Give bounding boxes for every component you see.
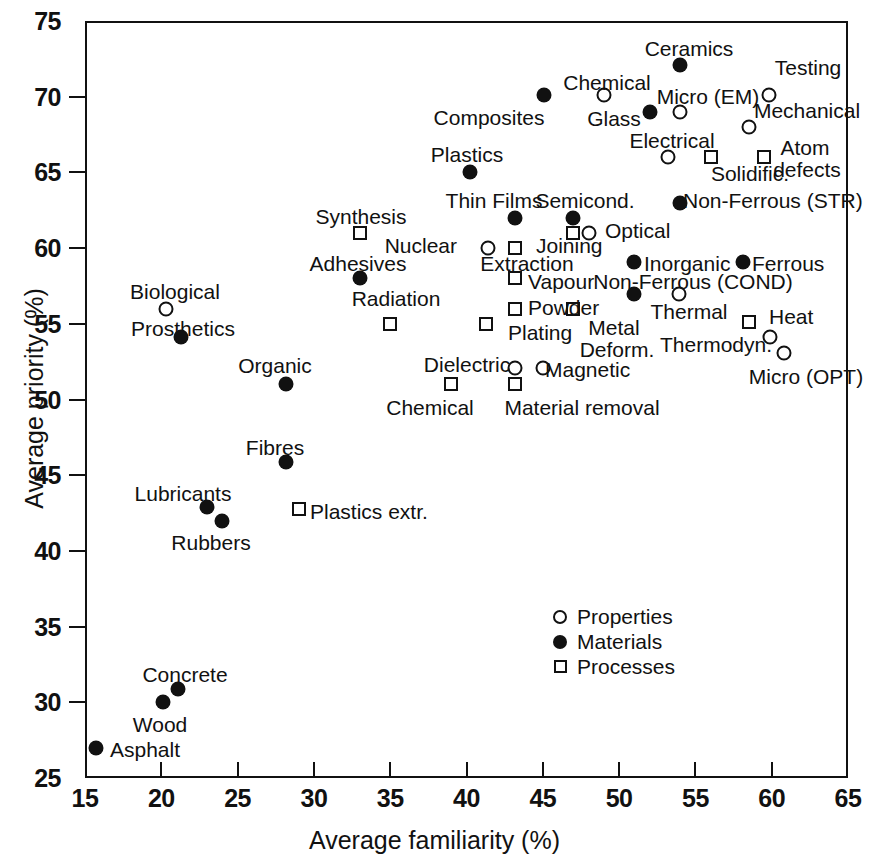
data-point-label: Synthesis (315, 206, 406, 227)
y-axis-tick (69, 96, 85, 98)
legend-item-label: Properties (577, 605, 673, 629)
x-axis-tick-label: 55 (655, 784, 735, 813)
data-point-label: Metal (588, 317, 639, 338)
data-point-marker (508, 377, 522, 391)
x-axis-tick (160, 762, 162, 778)
data-point-marker (155, 695, 170, 710)
x-axis-tick (542, 762, 544, 778)
x-axis-tick-label: 35 (350, 784, 430, 813)
x-axis-tick (694, 762, 696, 778)
data-point-label: Deform. (580, 339, 655, 360)
data-point-label: Semicond. (535, 190, 634, 211)
data-point-label: Solidific. (711, 163, 789, 184)
data-point-label: Electrical (629, 130, 714, 151)
data-point-label: Adhesives (310, 253, 407, 274)
data-point-label: Prosthetics (131, 318, 235, 339)
data-point-label: Organic (238, 355, 312, 376)
data-point-label: Composites (434, 107, 545, 128)
data-point-label: Plastics extr. (310, 501, 428, 522)
data-point-label: Atom (780, 137, 829, 158)
data-point-label: Thermal (650, 301, 727, 322)
x-axis-tick-label: 50 (579, 784, 659, 813)
data-point-label: Ceramics (645, 38, 734, 59)
data-point-marker (383, 317, 397, 331)
data-point-marker (508, 302, 522, 316)
data-point-marker (742, 315, 756, 329)
legend-item-processes: Processes (549, 654, 675, 679)
data-point-label: Glass (587, 108, 641, 129)
data-point-marker (158, 301, 173, 316)
data-point-label: Dielectric (424, 354, 510, 375)
x-axis-tick-label: 45 (503, 784, 583, 813)
data-point-label: Chemical (563, 72, 651, 93)
data-point-label: Material removal (504, 397, 659, 418)
y-axis-tick (69, 399, 85, 401)
y-axis-title: Average priority (%) (20, 149, 49, 649)
data-point-marker (279, 377, 294, 392)
data-point-marker (566, 210, 581, 225)
y-axis-tick (69, 474, 85, 476)
x-axis-tick-label: 20 (121, 784, 201, 813)
data-point-marker (479, 317, 493, 331)
data-point-label: Micro (OPT) (749, 366, 863, 387)
data-point-marker (444, 377, 458, 391)
data-point-label: Plastics (431, 144, 503, 165)
x-axis-tick-label: 65 (808, 784, 869, 813)
data-point-marker (735, 254, 750, 269)
x-axis-tick-label: 15 (45, 784, 125, 813)
data-point-label: Lubricants (135, 483, 232, 504)
data-point-label: Thermodyn. (660, 334, 772, 355)
x-axis-tick-label: 40 (427, 784, 507, 813)
y-axis-tick-label: 30 (0, 688, 61, 717)
data-point-label: Heat (769, 306, 813, 327)
y-axis-tick (69, 550, 85, 552)
data-point-marker (215, 513, 230, 528)
legend-marker-open-square-icon (549, 660, 571, 673)
y-axis-tick-label: 75 (0, 7, 61, 36)
data-point-marker (353, 226, 367, 240)
data-point-marker (537, 88, 552, 103)
legend-marker-open-circle-icon (549, 610, 571, 624)
data-point-label: Micro (EM) (657, 86, 760, 107)
data-point-label: Wood (133, 714, 187, 735)
x-axis-tick-label: 30 (274, 784, 354, 813)
y-axis-tick (69, 323, 85, 325)
x-axis-tick (618, 762, 620, 778)
data-point-label: Non-Ferrous (COND) (593, 271, 793, 292)
x-axis-title: Average familiarity (%) (0, 826, 869, 855)
data-point-label: Fibres (246, 437, 304, 458)
scatter-chart-figure: 2530354045505560657075 15202530354045505… (0, 0, 869, 860)
data-point-marker (660, 150, 675, 165)
data-point-label: Optical (605, 220, 670, 241)
data-point-label: Asphalt (110, 739, 180, 760)
data-point-label: Biological (130, 281, 220, 302)
y-axis-tick-label: 70 (0, 83, 61, 112)
data-point-label: Chemical (386, 397, 474, 418)
x-axis-tick-label: 60 (732, 784, 812, 813)
data-point-label: Plating (508, 322, 572, 343)
data-point-label: Mechanical (754, 100, 860, 121)
data-point-marker (462, 165, 477, 180)
x-axis-tick (237, 762, 239, 778)
data-point-label: Concrete (142, 664, 227, 685)
data-point-marker (292, 502, 306, 516)
y-axis-tick (69, 626, 85, 628)
y-axis-tick (69, 247, 85, 249)
x-axis-tick (771, 762, 773, 778)
data-point-label: Testing (775, 57, 842, 78)
legend-item-label: Processes (577, 655, 675, 679)
x-axis-tick (389, 762, 391, 778)
x-axis-tick (466, 762, 468, 778)
chart-legend: PropertiesMaterialsProcesses (549, 604, 675, 679)
legend-item-label: Materials (577, 630, 662, 654)
data-point-label: Thin Films (446, 190, 543, 211)
data-point-label: Non-Ferrous (STR) (683, 190, 863, 211)
x-axis-tick-label: 25 (198, 784, 278, 813)
y-axis-tick (69, 171, 85, 173)
x-axis-tick (313, 762, 315, 778)
data-point-label: Magnetic (545, 359, 630, 380)
data-point-label: Rubbers (171, 532, 250, 553)
data-point-label: Vapour (528, 271, 594, 292)
data-point-marker (88, 740, 103, 755)
data-point-marker (776, 345, 791, 360)
